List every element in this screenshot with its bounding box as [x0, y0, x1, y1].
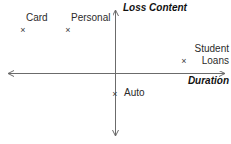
y-axis-title: Loss Content — [123, 2, 187, 13]
data-point-marker-personal: × — [64, 26, 72, 35]
data-point-label-loans: Loans — [169, 55, 229, 66]
data-point-marker-card: × — [19, 26, 27, 35]
data-point-marker-student-loans: × — [180, 57, 188, 66]
data-point-marker-auto: × — [111, 90, 119, 99]
diagram-canvas: Loss Content Duration Card × Personal × … — [0, 0, 231, 144]
data-point-label-personal: Personal — [71, 12, 110, 23]
data-point-label-card: Card — [26, 12, 48, 23]
data-point-label-student: Student — [169, 43, 229, 54]
x-axis-title: Duration — [171, 75, 229, 86]
data-point-label-auto: Auto — [124, 87, 145, 98]
